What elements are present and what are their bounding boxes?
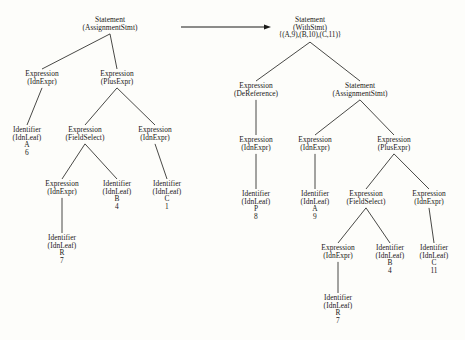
tree-node-l0: Statement(AssignmentStmt) bbox=[83, 16, 138, 31]
node-number-label: 1 bbox=[153, 203, 182, 211]
node-variant-label: (AssignmentStmt) bbox=[83, 24, 138, 32]
node-number-label: 4 bbox=[103, 203, 132, 211]
tree-node-l4: Expression(FieldSelect) bbox=[66, 126, 105, 141]
tree-node-r11: Identifier(IdnLeaf)B4 bbox=[376, 244, 405, 274]
tree-edge bbox=[429, 208, 434, 243]
tree-edge bbox=[110, 34, 117, 69]
tree-node-r1: Expression(DeReference) bbox=[234, 82, 278, 97]
tree-edge bbox=[27, 88, 42, 125]
tree-node-r4: Expression(IdnExpr) bbox=[298, 136, 331, 151]
node-variant-label: (FieldSelect) bbox=[66, 134, 105, 142]
tree-edge bbox=[85, 144, 117, 179]
tree-node-l9: Identifier(IdnLeaf)R7 bbox=[48, 234, 77, 264]
tree-node-l8: Identifier(IdnLeaf)C1 bbox=[153, 180, 182, 210]
tree-edge bbox=[256, 42, 310, 81]
node-variant-label: (IdnExpr) bbox=[25, 78, 58, 86]
tree-node-r0: Statement(WithStmt){(A,9),(B,10),(C,11)} bbox=[279, 16, 341, 39]
tree-edge bbox=[310, 42, 360, 81]
tree-node-r13: Identifier(IdnLeaf)R7 bbox=[324, 294, 353, 324]
node-number-label: 9 bbox=[301, 213, 330, 221]
tree-node-l3: Identifier(IdnLeaf)A6 bbox=[13, 126, 42, 156]
node-number-label: 7 bbox=[48, 257, 77, 265]
node-variant-label: (IdnExpr) bbox=[138, 134, 171, 142]
tree-node-r2: Statement(AssignmentStmt) bbox=[333, 82, 388, 97]
tree-edge bbox=[366, 208, 390, 243]
node-number-label: 8 bbox=[242, 213, 271, 221]
node-variant-label: (PlusExpr) bbox=[377, 144, 410, 152]
tree-edge bbox=[366, 154, 394, 189]
tree-node-r10: Expression(IdnExpr) bbox=[321, 244, 354, 259]
node-variant-label: (FieldSelect) bbox=[347, 198, 386, 206]
tree-edge bbox=[85, 88, 117, 125]
tree-edge bbox=[62, 144, 85, 179]
tree-edge bbox=[315, 100, 360, 135]
node-variant-label: (AssignmentStmt) bbox=[333, 90, 388, 98]
node-number-label: 7 bbox=[324, 317, 353, 325]
node-variant-label: (IdnExpr) bbox=[321, 252, 354, 260]
tree-edges-layer bbox=[0, 0, 465, 340]
tree-node-l5: Expression(IdnExpr) bbox=[138, 126, 171, 141]
node-environment-label: {(A,9),(B,10),(C,11)} bbox=[279, 31, 341, 39]
tree-edge bbox=[360, 100, 394, 135]
node-variant-label: (IdnExpr) bbox=[412, 198, 445, 206]
tree-node-l6: Expression(IdnExpr) bbox=[45, 180, 78, 195]
tree-edge bbox=[155, 144, 167, 179]
tree-node-l1: Expression(IdnExpr) bbox=[25, 70, 58, 85]
tree-node-l2: Expression(PlusExpr) bbox=[100, 70, 133, 85]
node-number-label: 4 bbox=[376, 267, 405, 275]
parse-tree-figure: Statement(AssignmentStmt)Expression(IdnE… bbox=[0, 0, 465, 340]
tree-edge bbox=[117, 88, 155, 125]
tree-edge bbox=[42, 34, 110, 69]
node-variant-label: (IdnExpr) bbox=[45, 188, 78, 196]
tree-node-r6: Identifier(IdnLeaf)P8 bbox=[242, 190, 271, 220]
node-variant-label: (IdnExpr) bbox=[239, 144, 272, 152]
tree-node-r9: Expression(IdnExpr) bbox=[412, 190, 445, 205]
node-number-label: 11 bbox=[420, 267, 449, 275]
tree-edge bbox=[394, 154, 429, 189]
tree-node-r7: Identifier(IdnLeaf)A9 bbox=[301, 190, 330, 220]
node-variant-label: (DeReference) bbox=[234, 90, 278, 98]
tree-node-r5: Expression(PlusExpr) bbox=[377, 136, 410, 151]
node-variant-label: (PlusExpr) bbox=[100, 78, 133, 86]
tree-node-r3: Expression(IdnExpr) bbox=[239, 136, 272, 151]
tree-node-r8: Expression(FieldSelect) bbox=[347, 190, 386, 205]
tree-node-r12: Identifier(IdnLeaf)C11 bbox=[420, 244, 449, 274]
tree-edge bbox=[338, 208, 366, 243]
node-number-label: 6 bbox=[13, 149, 42, 157]
rewrites-to-arrow-head bbox=[264, 24, 271, 29]
node-variant-label: (IdnExpr) bbox=[298, 144, 331, 152]
tree-node-l7: Identifier(IdnLeaf)B4 bbox=[103, 180, 132, 210]
